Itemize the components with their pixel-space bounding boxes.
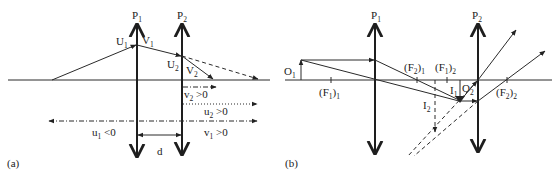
panel-b-tag: (b) (285, 157, 298, 170)
lens-p1-label: P1 (132, 9, 142, 24)
panel-a-tag: (a) (7, 157, 20, 170)
label-u1: U1 (116, 35, 128, 50)
label-u1-negative: u1 <0 (92, 126, 116, 141)
lens-p2-b-label: P2 (472, 9, 482, 24)
label-f2-1: (F2)1 (404, 61, 425, 76)
ray-exit-center (478, 30, 516, 80)
label-o2: O2 (462, 82, 474, 97)
label-u2: U2 (167, 58, 179, 73)
lens-p2-label: P2 (177, 9, 187, 24)
label-f1-2: (F1)2 (435, 61, 456, 76)
label-f1-1: (F1)1 (319, 86, 340, 101)
panel-b: P1 P2 O1 (F1)1 (F2)1 (F1)2 (F2)2 I1 O2 (284, 9, 552, 170)
label-i2: I2 (423, 99, 431, 114)
lens-p1-b-label: P1 (371, 9, 381, 24)
label-v2-positive: v2 >0 (184, 88, 208, 103)
two-lens-optics-diagram: P1 P2 U1 V1 U2 V2 v2 >0 u2 >0 u1 <0 v1 >… (0, 0, 557, 178)
ray-incident (52, 45, 136, 80)
panel-a: P1 P2 U1 V1 U2 V2 v2 >0 u2 >0 u1 <0 v1 >… (7, 9, 270, 170)
label-u2-positive: u2 >0 (204, 105, 228, 120)
ray-between-lenses (137, 45, 181, 56)
label-f2-2: (F2)2 (496, 86, 517, 101)
label-v1-positive: v1 >0 (204, 126, 228, 141)
label-o1: O1 (284, 65, 296, 80)
virtual-ray-center (408, 80, 478, 156)
label-d: d (157, 145, 163, 157)
